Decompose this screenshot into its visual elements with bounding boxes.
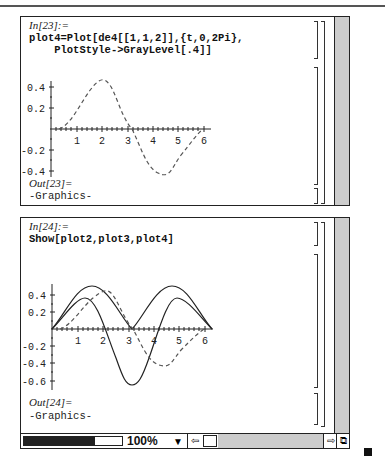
- svg-text:1: 1: [75, 336, 81, 347]
- x-tick-labels: 1 2 3 4 5 6: [74, 136, 207, 147]
- window-status-bar: 100% ▼ ⇦ ⇨ ⧉: [20, 433, 350, 449]
- svg-text:1: 1: [74, 136, 80, 147]
- vertical-scrollbar[interactable]: [334, 218, 349, 434]
- window-top-border: [0, 5, 385, 7]
- cell-bracket-output[interactable]: [314, 188, 318, 204]
- horizontal-scroll-thumb[interactable]: [203, 435, 217, 447]
- plot4-curve: [60, 291, 204, 366]
- plot4-curve: [59, 80, 203, 175]
- output-label: Out[24]=: [29, 396, 72, 408]
- y-tick-labels: 0.4 0.2 -0.2 -0.4: [21, 83, 45, 178]
- plot-graphic-2[interactable]: 1 2 3 4 5 6 0.4 0.2 -0.2 -0.4 -0.6: [21, 218, 321, 418]
- horizontal-scrollbar-track[interactable]: [218, 434, 324, 448]
- scroll-left-button[interactable]: ⇦: [187, 434, 201, 448]
- cell-bracket-graphics[interactable]: [314, 67, 318, 185]
- cell-bracket-input[interactable]: [314, 21, 318, 59]
- y-tick-labels: 0.4 0.2 -0.2 -0.4 -0.6: [22, 291, 46, 388]
- cell-bracket-input[interactable]: [314, 222, 318, 246]
- svg-text:2: 2: [99, 136, 105, 147]
- svg-text:-0.6: -0.6: [22, 377, 46, 388]
- notebook-panel-1: In[23]:= plot4=Plot[de4[[1,1,2]],{t,0,2P…: [20, 16, 350, 206]
- output-text: -Graphics-: [29, 410, 92, 422]
- svg-text:0.2: 0.2: [27, 104, 45, 115]
- notebook-panel-2: In[24]:= Show[plot2,plot3,plot4] 1 2 3 4…: [20, 217, 350, 449]
- end-of-figure-marker: [364, 448, 372, 456]
- output-text: -Graphics-: [29, 190, 92, 202]
- svg-text:0.4: 0.4: [28, 291, 46, 302]
- cell-bracket-graphics[interactable]: [314, 254, 318, 388]
- cell-group-bracket[interactable]: [321, 21, 325, 204]
- plot2-curve: [52, 286, 212, 329]
- vertical-scrollbar[interactable]: [334, 17, 349, 205]
- scroll-right-button[interactable]: ⇨: [323, 434, 337, 448]
- resize-grow-box-icon[interactable]: ⧉: [336, 434, 350, 448]
- cell-group-bracket[interactable]: [321, 222, 325, 427]
- zoom-level[interactable]: 100%: [127, 434, 158, 449]
- svg-text:6: 6: [201, 136, 207, 147]
- output-label: Out[23]=: [29, 177, 72, 189]
- svg-text:-0.2: -0.2: [21, 146, 45, 157]
- svg-text:5: 5: [175, 136, 181, 147]
- svg-text:6: 6: [202, 336, 208, 347]
- svg-text:0.4: 0.4: [27, 83, 45, 94]
- svg-text:-0.4: -0.4: [22, 359, 46, 370]
- svg-text:3: 3: [126, 336, 132, 347]
- zoom-dropdown-arrow-icon[interactable]: ▼: [173, 434, 183, 449]
- cell-bracket-output[interactable]: [314, 393, 318, 425]
- svg-text:3: 3: [125, 136, 131, 147]
- svg-text:-0.2: -0.2: [22, 342, 46, 353]
- svg-text:5: 5: [176, 336, 182, 347]
- svg-text:0.2: 0.2: [28, 308, 46, 319]
- magnification-ruler[interactable]: [23, 436, 123, 446]
- svg-text:4: 4: [150, 136, 156, 147]
- svg-text:2: 2: [100, 336, 106, 347]
